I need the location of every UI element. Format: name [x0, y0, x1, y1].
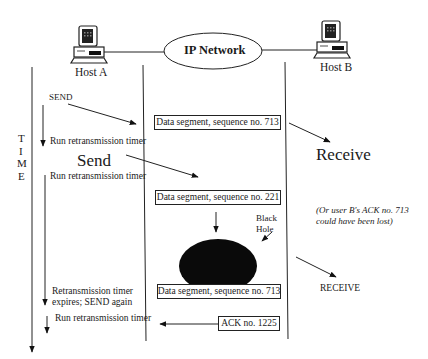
segment-box-713-resend: Data segment, sequence no. 713 — [157, 284, 281, 299]
network-boundary-left — [143, 65, 146, 341]
ack-box-1225: ACK no. 1225 — [218, 316, 280, 331]
send-arrow-1 — [68, 104, 136, 124]
black-hole-label-line2: Hole — [256, 225, 274, 234]
time-letter-m: M — [17, 158, 27, 169]
ip-network-label: IP Network — [184, 44, 245, 57]
receive-arrow-2 — [296, 257, 336, 277]
host-b-label: Host B — [320, 62, 352, 74]
host-a-label: Host A — [75, 67, 107, 79]
receive-label-1: Receive — [316, 146, 371, 163]
network-boundary-right — [285, 62, 288, 339]
black-hole-label-line1: Black — [256, 214, 277, 223]
timer-expires-label-line2: expires; SEND again — [52, 298, 132, 308]
lost-ack-note-line1: (Or user B's ACK no. 713 — [316, 206, 409, 215]
send-label-1: SEND — [49, 93, 73, 102]
lost-ack-note-line2: could have been lost) — [316, 217, 393, 226]
run-timer-label-1: Run retransmission timer — [50, 137, 146, 147]
time-letter-i: I — [19, 146, 23, 157]
segment-box-713-first: Data segment, sequence no. 713 — [154, 115, 281, 130]
host-a-computer-icon — [71, 26, 107, 63]
segment-box-221: Data segment, sequence no. 221 — [155, 190, 281, 205]
time-letter-e: E — [18, 171, 25, 182]
host-b-computer-icon — [314, 21, 350, 58]
receive-label-2: RECEIVE — [320, 284, 360, 294]
run-timer-label-3: Run retransmission timer — [55, 314, 151, 324]
run-timer-label-2: Run retransmission timer — [50, 172, 146, 182]
send-label-2: Send — [77, 152, 111, 169]
time-letter-t: T — [18, 133, 25, 144]
timer-expires-label-line1: Retransmission timer — [52, 287, 133, 297]
receive-arrow-1 — [289, 123, 330, 142]
